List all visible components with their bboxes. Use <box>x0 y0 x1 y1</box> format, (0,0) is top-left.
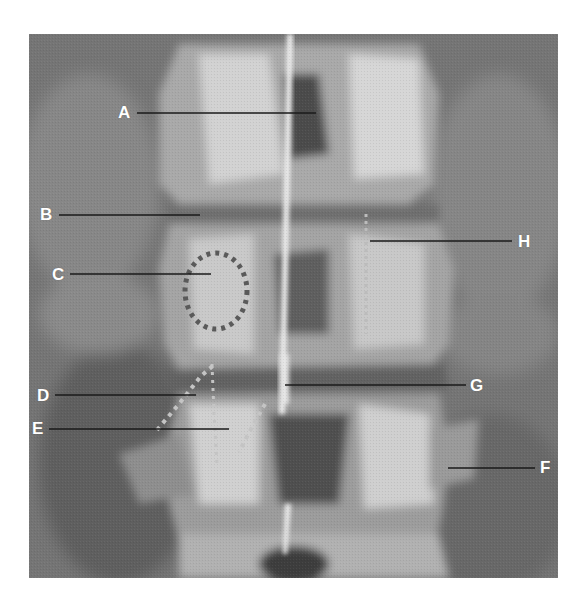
label-h: H <box>518 233 530 250</box>
label-e: E <box>32 420 43 437</box>
label-f: F <box>540 459 550 476</box>
label-a: A <box>118 104 130 121</box>
leader-lines <box>0 0 584 602</box>
label-d: D <box>37 387 49 404</box>
label-g: G <box>470 377 483 394</box>
label-c: C <box>52 266 64 283</box>
label-b: B <box>40 206 52 223</box>
